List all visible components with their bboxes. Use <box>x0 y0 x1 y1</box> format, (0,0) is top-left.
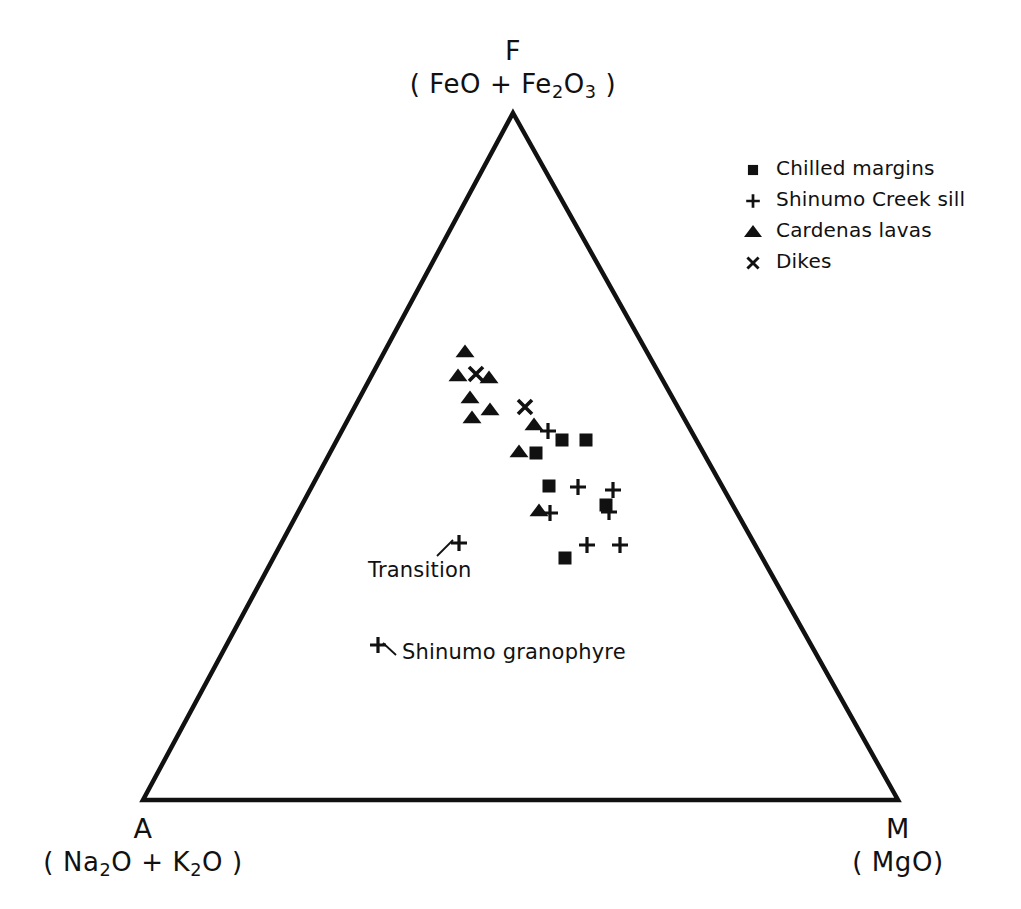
vertex-formula-f-post: ) <box>597 69 617 99</box>
annotation-label-transition: Transition <box>368 558 472 582</box>
plus-icon <box>740 186 766 217</box>
data-point <box>543 480 556 493</box>
data-point <box>370 637 386 653</box>
vertex-formula-a-sub1: 2 <box>99 860 111 880</box>
vertex-formula-a-mid: O + K <box>111 847 190 877</box>
cross-icon <box>740 248 766 279</box>
vertex-formula-f-sub2: 3 <box>585 82 597 102</box>
vertex-formula-f-mid: O <box>564 69 585 99</box>
data-point <box>559 552 572 565</box>
vertex-letter-f: F <box>410 34 617 68</box>
data-point <box>449 369 468 382</box>
legend-item-label: Cardenas lavas <box>776 217 932 243</box>
vertex-formula-m: ( MgO) <box>852 846 944 879</box>
vertex-formula-a: ( Na2O + K2O ) <box>43 846 242 881</box>
data-point <box>579 537 595 553</box>
annotation-leader-line <box>383 643 396 655</box>
data-point <box>469 367 483 381</box>
legend-item-label: Dikes <box>776 248 832 274</box>
data-point <box>456 345 475 358</box>
vertex-formula-a-post: O ) <box>202 847 243 877</box>
data-point <box>530 504 549 517</box>
vertex-letter-a: A <box>43 812 242 846</box>
vertex-formula-a-pre: ( Na <box>43 847 99 877</box>
data-point <box>556 434 569 447</box>
legend-item-label: Shinumo Creek sill <box>776 186 965 212</box>
vertex-label-m: M ( MgO) <box>852 812 944 878</box>
data-point <box>463 411 482 424</box>
ternary-plot-canvas <box>0 0 1021 909</box>
data-point <box>612 537 628 553</box>
afm-ternary-diagram: F ( FeO + Fe2O3 ) A ( Na2O + K2O ) M ( M… <box>0 0 1021 909</box>
data-point-layer <box>370 345 628 653</box>
vertex-label-f: F ( FeO + Fe2O3 ) <box>410 34 617 103</box>
vertex-formula-f-pre: ( FeO + Fe <box>410 69 552 99</box>
data-point <box>510 445 529 458</box>
data-point <box>525 418 544 431</box>
annotation-leader-line <box>437 540 453 556</box>
data-point <box>461 391 480 404</box>
data-point <box>570 479 586 495</box>
vertex-letter-m: M <box>852 812 944 846</box>
legend-item-label: Chilled margins <box>776 155 935 181</box>
data-point <box>605 482 621 498</box>
data-point <box>540 423 556 439</box>
vertex-formula-f: ( FeO + Fe2O3 ) <box>410 68 617 103</box>
vertex-label-a: A ( Na2O + K2O ) <box>43 812 242 881</box>
data-point <box>481 403 500 416</box>
data-point <box>530 447 543 460</box>
triangle-icon <box>740 217 766 248</box>
vertex-formula-f-sub1: 2 <box>552 82 564 102</box>
data-point <box>518 400 532 414</box>
square-icon <box>740 155 766 186</box>
annotation-label-shinumo-granophyre: Shinumo granophyre <box>402 640 626 664</box>
data-point <box>451 535 467 551</box>
vertex-formula-a-sub2: 2 <box>190 860 202 880</box>
data-point <box>580 434 593 447</box>
